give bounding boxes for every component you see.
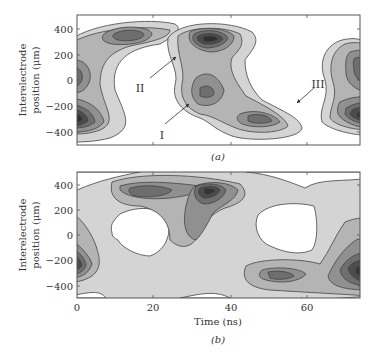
annotation-III: III: [311, 78, 324, 91]
xtick-label: 20: [147, 302, 160, 313]
ytick-label: 400: [54, 24, 73, 35]
panel-b-ylabel: Interelectrode position (μm): [17, 198, 41, 271]
xtick-label: 40: [225, 302, 238, 313]
ytick-label: −400: [46, 281, 73, 292]
ytick-label: −200: [46, 101, 73, 112]
ytick-label: 0: [67, 75, 73, 86]
ytick-label: 0: [67, 230, 73, 241]
panel-a-yticks: 400 200 0 −200 −400: [46, 24, 73, 138]
ytick-label: 400: [54, 180, 73, 191]
figure: 400 200 0 −200 −400 Interelectrode posit…: [0, 0, 374, 361]
panel-b-xticks: 0 20 40 60: [74, 302, 314, 313]
ylabel-line1: Interelectrode: [17, 198, 28, 271]
ylabel-line2: position (μm): [30, 46, 41, 113]
ytick-label: −200: [46, 255, 73, 266]
ytick-label: −400: [46, 127, 73, 138]
panel-a-plot: [70, 15, 370, 145]
ytick-label: 200: [54, 50, 73, 61]
ylabel-line2: position (μm): [30, 201, 41, 268]
panel-b-label: (b): [211, 334, 225, 345]
annotation-I: I: [160, 129, 164, 142]
ytick-label: 200: [54, 205, 73, 216]
panel-a-ylabel: Interelectrode position (μm): [17, 43, 41, 116]
ylabel-line1: Interelectrode: [17, 43, 28, 116]
panel-b-plot: [70, 172, 370, 304]
panel-b-yticks: 400 200 0 −200 −400: [46, 180, 73, 292]
xtick-label: 60: [301, 302, 314, 313]
panel-a-label: (a): [211, 151, 225, 162]
panel-b-xlabel: Time (ns): [194, 316, 242, 327]
annotation-II: II: [136, 82, 145, 95]
xtick-label: 0: [74, 302, 80, 313]
